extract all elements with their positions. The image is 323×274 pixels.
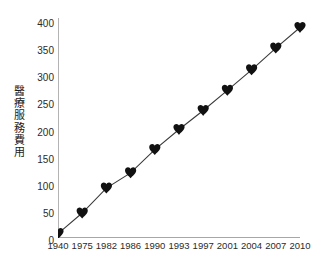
heart-icon <box>58 228 64 238</box>
y-tick-label: 300 <box>24 72 54 83</box>
data-series <box>58 22 306 238</box>
data-point-marker <box>125 167 136 178</box>
plot-area <box>58 18 306 238</box>
y-tick-label: 100 <box>24 181 54 192</box>
data-point-marker <box>58 228 64 238</box>
heart-icon <box>125 167 136 178</box>
y-tick-label: 350 <box>24 45 54 56</box>
x-axis-tick-labels: 1940197519821986199019931997200120042007… <box>58 240 310 256</box>
y-tick-label: 250 <box>24 99 54 110</box>
y-tick-label: 200 <box>24 127 54 138</box>
y-tick-label: 400 <box>24 18 54 29</box>
y-tick-label: 150 <box>24 154 54 165</box>
line-chart: 醫 療 服 務 費 用 050100150200250300350400 194… <box>0 0 323 274</box>
y-tick-label: 50 <box>24 208 54 219</box>
y-axis-tick-labels: 050100150200250300350400 <box>22 18 54 238</box>
plot-svg <box>58 18 306 238</box>
x-tick-label: 2010 <box>283 240 317 251</box>
